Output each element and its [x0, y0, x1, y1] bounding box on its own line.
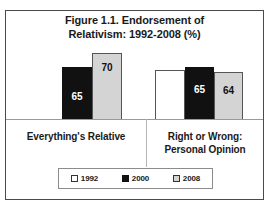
bar-value-label: 70: [93, 62, 121, 73]
chart-legend: 1992 2000 2008: [58, 168, 213, 189]
legend-item-1992: 1992: [71, 174, 98, 183]
gray-square-icon: [173, 175, 180, 182]
black-square-icon: [122, 175, 129, 182]
chart-title: Figure 1.1. Endorsement of Relativism: 1…: [5, 14, 264, 41]
legend-label: 2000: [132, 174, 149, 183]
category-label-everythings-relative: Everything's Relative: [8, 130, 144, 143]
category-label-line: Opinion: [209, 144, 246, 155]
plot-area: 65 70 65 64: [6, 44, 263, 120]
legend-item-2008: 2008: [173, 174, 200, 183]
category-label-line: Everything's Relative: [27, 131, 126, 142]
bar-value-label: 64: [215, 85, 242, 96]
bar-right-or-wrong-2000: 65: [185, 67, 214, 120]
bar-value-label: 65: [63, 91, 91, 102]
chart-title-line-2: Relativism: 1992-2008 (%): [5, 28, 264, 42]
figure-root: Figure 1.1. Endorsement of Relativism: 1…: [0, 0, 274, 214]
legend-label: 1992: [81, 174, 98, 183]
legend-label: 2008: [183, 174, 200, 183]
bar-right-or-wrong-2008: 64: [214, 72, 243, 120]
chart-title-line-1: Figure 1.1. Endorsement of: [5, 14, 264, 28]
category-group-divider: [146, 119, 147, 167]
category-label-right-or-wrong: Right or Wrong: Personal Opinion: [148, 130, 262, 156]
white-square-icon: [71, 175, 78, 182]
bar-everythings-relative-2000: 65: [62, 67, 92, 120]
bar-everythings-relative-2008: 70: [92, 53, 122, 120]
legend-item-2000: 2000: [122, 174, 149, 183]
bar-right-or-wrong-1992: [155, 70, 185, 120]
axis-baseline: [6, 119, 263, 120]
bar-value-label: 65: [186, 84, 213, 95]
